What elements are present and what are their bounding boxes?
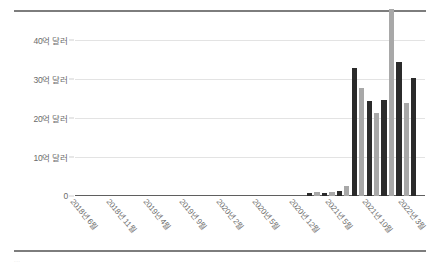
y-tick-label: 10억 달러 bbox=[33, 151, 68, 163]
top-border-rule bbox=[14, 10, 426, 12]
x-axis-labels: 2018년 6월2018년 11월2019년 4월2019년 9월2020년 2… bbox=[75, 196, 425, 250]
bar bbox=[389, 9, 394, 196]
x-tick-label: 2018년 11월 bbox=[105, 196, 139, 234]
x-tick-label: 2021년 10월 bbox=[360, 196, 395, 235]
bottom-border-rule bbox=[14, 250, 426, 252]
y-tick-mark bbox=[69, 39, 74, 40]
y-tick-mark bbox=[69, 78, 74, 79]
x-tick-label: 2018년 6월 bbox=[69, 196, 101, 231]
y-tick-mark bbox=[69, 156, 74, 157]
bar bbox=[404, 103, 409, 196]
x-tick-label: 2020년 12월 bbox=[287, 196, 322, 235]
y-tick-label: 20억 달러 bbox=[33, 112, 68, 124]
y-tick-label: 40억 달러 bbox=[33, 34, 68, 46]
bar bbox=[359, 88, 364, 196]
x-tick-label: 2021년 5월 bbox=[324, 196, 356, 231]
bar bbox=[396, 62, 401, 196]
chart-figure: 010억 달러20억 달러30억 달러40억 달러 2018년 6월2018년 … bbox=[0, 0, 436, 267]
y-tick-mark bbox=[69, 117, 74, 118]
y-tick-label: 30억 달러 bbox=[33, 73, 68, 85]
x-tick-label: 2020년 5월 bbox=[251, 196, 283, 231]
x-tick-label: 2019년 9월 bbox=[178, 196, 210, 231]
x-tick-label: 2019년 4월 bbox=[141, 196, 173, 231]
y-tick-label: 0 bbox=[63, 191, 68, 201]
bar bbox=[352, 68, 357, 196]
x-tick-label: 2020년 2월 bbox=[214, 196, 246, 231]
plot-area: 010억 달러20억 달러30억 달러40억 달러 bbox=[75, 20, 425, 196]
bar bbox=[411, 78, 416, 197]
bar bbox=[367, 101, 372, 196]
footer-caption: ... bbox=[14, 257, 21, 263]
y-tick-mark bbox=[69, 196, 74, 197]
bar bbox=[374, 113, 379, 196]
bars-group bbox=[75, 21, 425, 196]
bar bbox=[344, 186, 349, 196]
x-tick-label: 2022년 3월 bbox=[397, 196, 429, 231]
bar bbox=[381, 100, 386, 196]
